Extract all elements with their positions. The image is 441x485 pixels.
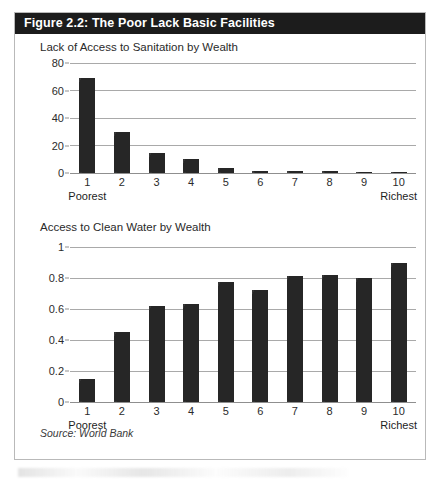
x-axis-tick-label: 10 [393,176,405,188]
plot-area-water: 00.20.40.60.81 12345678910PoorestRichest [70,247,416,402]
bar [114,132,130,173]
figure-title-bar: Figure 2.2: The Poor Lack Basic Faciliti… [15,13,425,34]
x-axis-tick-label: 9 [361,176,367,188]
y-axis-tick-label: 60 [52,85,64,97]
bar [356,278,372,402]
bar [183,159,199,173]
scan-artifact [18,468,348,477]
bar-series-sanitation [70,63,416,173]
bar [183,304,199,402]
y-tick-mark [65,371,69,372]
y-axis-tick-label: 0.8 [49,272,64,284]
y-tick-mark [65,145,69,146]
bar [79,379,95,402]
bar [391,172,407,173]
y-axis-tick-label: 0.2 [49,365,64,377]
y-tick-mark [65,402,69,403]
bar [79,78,95,173]
chart-panel-sanitation: Lack of Access to Sanitation by Wealth 0… [15,41,425,229]
chart-title-sanitation: Lack of Access to Sanitation by Wealth [40,41,238,53]
y-axis-tick-label: 40 [52,112,64,124]
bar [322,275,338,402]
y-axis-tick-label: 80 [52,57,64,69]
bar [252,171,268,173]
x-axis-tick-label: 9 [361,405,367,417]
x-axis-tick-label: 10 [393,405,405,417]
bar [287,276,303,402]
y-tick-mark [65,309,69,310]
x-axis-tick-label: 3 [153,405,159,417]
x-axis-tick-label: 8 [326,176,332,188]
y-tick-mark [65,340,69,341]
y-axis-tick-label: 1 [58,241,64,253]
bar [287,171,303,173]
bar [391,263,407,402]
x-axis-tick-label: 7 [292,405,298,417]
chart-title-water: Access to Clean Water by Wealth [40,221,211,233]
x-axis-label-richest: Richest [380,419,417,431]
x-axis-label-richest: Richest [380,190,417,202]
y-tick-mark [65,278,69,279]
x-axis-tick-label: 1 [84,176,90,188]
x-axis-tick-label: 2 [119,405,125,417]
y-tick-mark [65,63,69,64]
x-axis-tick-label: 6 [257,405,263,417]
bar [114,332,130,402]
x-axis-tick-label: 6 [257,176,263,188]
x-axis-tick-label: 1 [84,405,90,417]
x-axis-tick-label: 5 [223,405,229,417]
x-axis-tick-label: 7 [292,176,298,188]
bar [356,172,372,173]
y-tick-mark [65,118,69,119]
y-tick-mark [65,90,69,91]
x-axis-tick-label: 5 [223,176,229,188]
figure-title: Figure 2.2: The Poor Lack Basic Faciliti… [24,16,275,30]
x-axis-tick-label: 3 [153,176,159,188]
figure-container: Figure 2.2: The Poor Lack Basic Faciliti… [14,12,426,460]
bar [149,153,165,173]
y-tick-mark [65,247,69,248]
x-axis-tick-label: 4 [188,176,194,188]
bar [218,168,234,173]
bar-series-water [70,247,416,402]
plot-area-sanitation: 020406080 12345678910PoorestRichest [70,63,416,173]
y-axis-tick-label: 0.6 [49,303,64,315]
bar [322,171,338,173]
bar [218,282,234,402]
chart-panel-water: Access to Clean Water by Wealth 00.20.40… [15,221,425,421]
x-axis-tick-label: 8 [326,405,332,417]
y-axis-tick-label: 0.4 [49,334,64,346]
y-axis-tick-label: 0 [58,396,64,408]
x-axis-tick-label: 2 [119,176,125,188]
x-axis-tick-label: 4 [188,405,194,417]
bar [149,306,165,402]
y-axis-tick-label: 0 [58,167,64,179]
y-tick-mark [65,173,69,174]
x-axis-label-poorest: Poorest [68,190,106,202]
y-axis-tick-label: 20 [52,140,64,152]
source-note: Source: World Bank [40,427,133,439]
bar [252,290,268,402]
